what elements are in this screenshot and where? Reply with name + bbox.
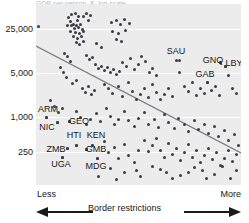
x-axis-footer: Less More Border restrictions (0, 185, 249, 223)
scatter-chart-figure: GDP per person, $, log scale SAUGNQLBYGA… (0, 0, 249, 223)
arrow-left-icon (36, 206, 94, 218)
ytick-label-25000: 25,000 (0, 25, 33, 34)
ytick-label-5000: 5,000 (0, 69, 33, 78)
x-axis-less-label: Less (37, 189, 56, 199)
ytick-label-1000: 1,000 (0, 113, 33, 122)
ytick-label-250: 250 (0, 148, 33, 157)
x-axis-more-label: More (220, 189, 241, 199)
arrow-right-icon (183, 206, 241, 218)
